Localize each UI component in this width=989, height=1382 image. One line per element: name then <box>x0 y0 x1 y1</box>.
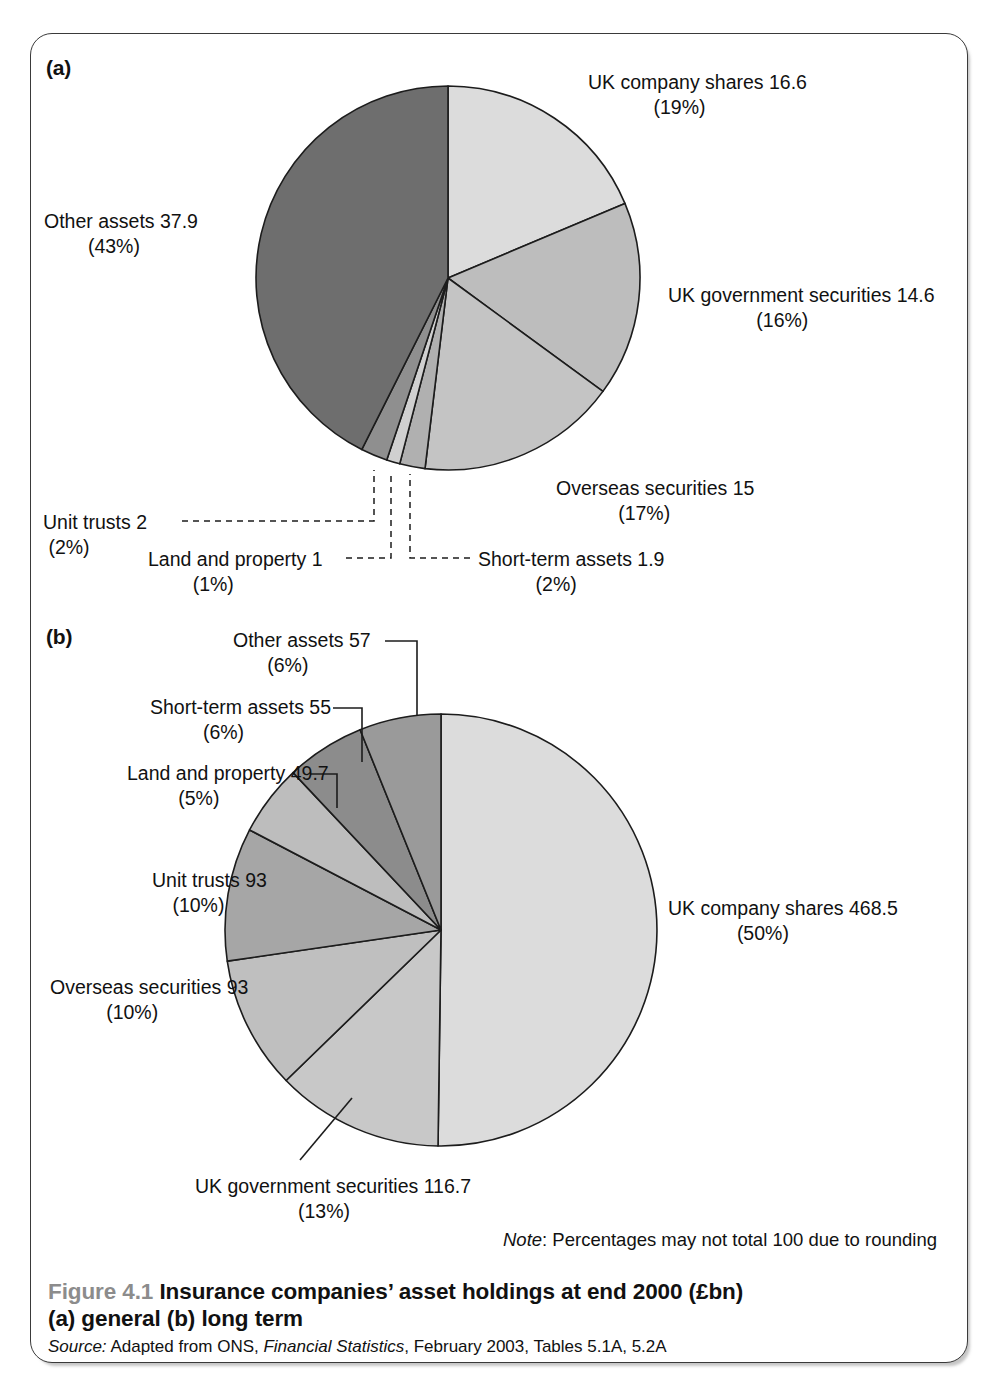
pie-chart-b <box>0 610 989 1170</box>
label-text-line2: (6%) <box>150 720 331 745</box>
label-text-line1: Unit trusts 93 <box>152 868 267 893</box>
label-text-line1: UK government securities 14.6 <box>668 283 935 308</box>
pie-a-label-uk-company-shares: UK company shares 16.6 (19%) <box>588 70 807 120</box>
pie-b-label-short-term-assets: Short-term assets 55 (6%) <box>150 695 331 745</box>
pie-b-label-other-assets: Other assets 57 (6%) <box>233 628 371 678</box>
label-text-line1: Short-term assets 55 <box>150 695 331 720</box>
pie-a-label-uk-government-securities: UK government securities 14.6 (16%) <box>668 283 935 333</box>
label-text-line2: (16%) <box>668 308 935 333</box>
pie-b-slice-uk-company-shares <box>438 714 657 1146</box>
label-text-line2: (6%) <box>233 653 371 678</box>
caption-title-text: Insurance companies’ asset holdings at e… <box>159 1279 743 1304</box>
leader-land-property-a <box>346 472 391 558</box>
source-prefix: Source: <box>48 1337 107 1356</box>
figure-number: Figure 4.1 <box>48 1279 153 1304</box>
pie-a-slices <box>256 86 640 470</box>
pie-a-label-overseas-securities: Overseas securities 15 (17%) <box>556 476 754 526</box>
pie-a-label-short-term-assets: Short-term assets 1.9 (2%) <box>478 547 664 597</box>
figure-caption: Figure 4.1 Insurance companies’ asset ho… <box>48 1278 928 1358</box>
label-text-line1: Unit trusts 2 <box>43 510 147 535</box>
label-text-line2: (1%) <box>148 572 323 597</box>
label-text-line1: UK government securities 116.7 <box>195 1174 471 1199</box>
label-text-line1: Land and property 49.7 <box>127 761 329 786</box>
label-text-line1: Land and property 1 <box>148 547 323 572</box>
chart-note: Note: Percentages may not total 100 due … <box>503 1229 937 1251</box>
leader-short-term-a <box>410 474 470 558</box>
pie-a-label-other-assets: Other assets 37.9 (43%) <box>44 209 198 259</box>
leader-unit-trusts-a <box>182 470 374 521</box>
caption-source-line: Source: Adapted from ONS, Financial Stat… <box>48 1335 928 1358</box>
label-text-line2: (19%) <box>588 95 807 120</box>
pie-b-label-land-and-property: Land and property 49.7 (5%) <box>127 761 329 811</box>
pie-b-label-overseas-securities: Overseas securities 93 (10%) <box>50 975 248 1025</box>
note-prefix: Note <box>503 1229 542 1250</box>
label-text-line2: (2%) <box>478 572 664 597</box>
pie-a-leader-lines <box>182 470 470 558</box>
leader-other-assets-b <box>385 641 417 716</box>
label-text-line1: UK company shares 468.5 <box>668 896 898 921</box>
pie-a-label-unit-trusts: Unit trusts 2 (2%) <box>43 510 147 560</box>
pie-a-label-land-and-property: Land and property 1 (1%) <box>148 547 323 597</box>
pie-b-label-uk-government-securities: UK government securities 116.7 (13%) <box>195 1174 471 1224</box>
pie-b-label-uk-company-shares: UK company shares 468.5 (50%) <box>668 896 898 946</box>
label-text-line1: Overseas securities 93 <box>50 975 248 1000</box>
label-text-line2: (17%) <box>556 501 754 526</box>
label-text-line1: Overseas securities 15 <box>556 476 754 501</box>
label-text-line2: (13%) <box>195 1199 471 1224</box>
label-text-line2: (2%) <box>43 535 147 560</box>
label-text-line2: (50%) <box>668 921 898 946</box>
source-text-2: , February 2003, Tables 5.1A, 5.2A <box>404 1337 666 1356</box>
label-text-line1: Short-term assets 1.9 <box>478 547 664 572</box>
source-publication: Financial Statistics <box>263 1337 404 1356</box>
pie-b-label-unit-trusts: Unit trusts 93 (10%) <box>152 868 267 918</box>
label-text-line2: (10%) <box>152 893 267 918</box>
caption-title-line: Figure 4.1 Insurance companies’ asset ho… <box>48 1278 928 1305</box>
caption-subtitle-line: (a) general (b) long term <box>48 1305 928 1332</box>
label-text-line2: (43%) <box>44 234 198 259</box>
label-text-line2: (5%) <box>127 786 329 811</box>
label-text-line1: Other assets 57 <box>233 628 371 653</box>
label-text-line1: UK company shares 16.6 <box>588 70 807 95</box>
source-text-1: Adapted from ONS, <box>107 1337 264 1356</box>
note-body: : Percentages may not total 100 due to r… <box>542 1229 937 1250</box>
label-text-line1: Other assets 37.9 <box>44 209 198 234</box>
label-text-line2: (10%) <box>50 1000 248 1025</box>
